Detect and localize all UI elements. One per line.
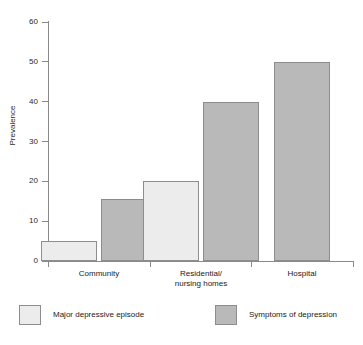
bar-chart-figure: Prevalence 6050403020100 CommunityReside… <box>0 0 363 345</box>
y-axis-tick-label: 40 <box>16 97 38 106</box>
x-axis-tick <box>150 262 151 267</box>
bar <box>203 102 259 261</box>
category-label: Hospital <box>242 269 362 279</box>
legend-entry: Symptoms of depression <box>215 303 337 327</box>
x-axis-line <box>48 261 354 262</box>
x-axis-tick <box>353 262 354 267</box>
y-axis-tick-label: 10 <box>16 216 38 225</box>
x-axis-tick <box>48 262 49 267</box>
x-axis-tick <box>251 262 252 267</box>
legend-swatch-light-icon <box>19 305 41 325</box>
legend-swatch-dark-icon <box>215 305 237 325</box>
y-axis-tick-label: 30 <box>16 137 38 146</box>
y-axis-tick-label: 60 <box>16 17 38 26</box>
plot-area <box>48 22 353 261</box>
y-axis-tick-label: 20 <box>16 176 38 185</box>
legend-entry: Major depressive episode <box>19 303 144 327</box>
chart-legend: Major depressive episodeSymptoms of depr… <box>0 303 363 331</box>
y-axis-tick-label: 50 <box>16 57 38 66</box>
bar <box>274 62 330 261</box>
legend-label: Major depressive episode <box>53 310 144 320</box>
bar <box>41 241 97 261</box>
bar <box>143 181 199 261</box>
legend-label: Symptoms of depression <box>249 310 337 320</box>
y-axis-tick-label: 0 <box>16 256 38 265</box>
